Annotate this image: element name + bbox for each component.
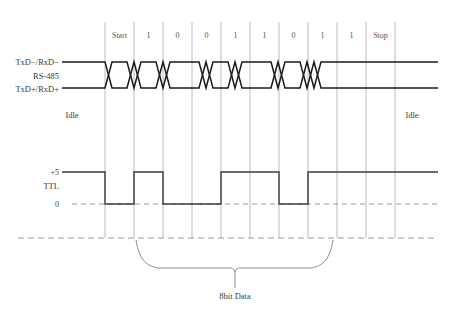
bit-label-d7: 1 — [350, 31, 354, 40]
bit-label-d3: 1 — [234, 31, 238, 40]
brace-path — [136, 240, 333, 272]
label-txd-plus: TxD+/RxD+ — [15, 84, 59, 94]
bit-label-d0: 1 — [147, 31, 151, 40]
label-ttl-high: +5 — [50, 168, 59, 177]
label-idle-left: Idle — [65, 110, 78, 120]
bit-label-d5: 0 — [292, 31, 296, 40]
bit-label-d4: 1 — [263, 31, 267, 40]
label-ttl: TTL — [43, 181, 59, 191]
ttl-labels: +5 TTL 0 — [43, 168, 59, 209]
bit-label-d1: 0 — [176, 31, 180, 40]
bit-gridlines — [105, 22, 395, 238]
timing-diagram-canvas: Start 1 0 0 1 1 0 1 1 Stop TxD−/RxD− RS-… — [0, 0, 450, 320]
bit-label-d2: 0 — [205, 31, 209, 40]
caption-8bit-data: 8bit Data — [219, 291, 251, 301]
label-rs485: RS-485 — [33, 71, 59, 81]
label-ttl-low: 0 — [55, 200, 59, 209]
bit-label-start: Start — [112, 31, 128, 40]
label-idle-right: Idle — [405, 110, 418, 120]
rs485-timing-diagram: Start 1 0 0 1 1 0 1 1 Stop TxD−/RxD− RS-… — [0, 0, 450, 320]
bit-label-d6: 1 — [321, 31, 325, 40]
data-bits-brace — [136, 240, 333, 288]
bit-label-stop: Stop — [373, 31, 388, 40]
label-txd-minus: TxD−/RxD− — [15, 57, 59, 67]
